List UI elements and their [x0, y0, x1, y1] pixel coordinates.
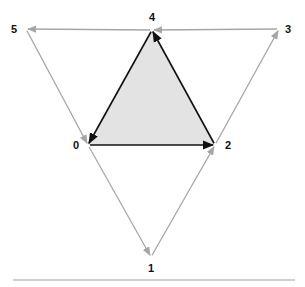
node-label-0: 0: [73, 139, 79, 151]
edge-3-to-4: [154, 29, 277, 30]
node-label-2: 2: [225, 139, 231, 151]
node-label-5: 5: [11, 23, 17, 35]
edge-5-to-0: [27, 31, 87, 143]
shaded-triangle-fill: [88, 30, 215, 145]
node-label-4: 4: [149, 11, 156, 23]
edge-1-to-2: [152, 147, 214, 256]
node-label-1: 1: [148, 262, 154, 274]
node-label-3: 3: [285, 23, 291, 35]
shaded-triangle: [88, 30, 215, 145]
edge-0-to-1: [89, 147, 150, 256]
graph-diagram: 012345: [0, 0, 305, 287]
edge-4-to-5: [28, 29, 150, 30]
edge-2-to-3: [216, 31, 278, 143]
